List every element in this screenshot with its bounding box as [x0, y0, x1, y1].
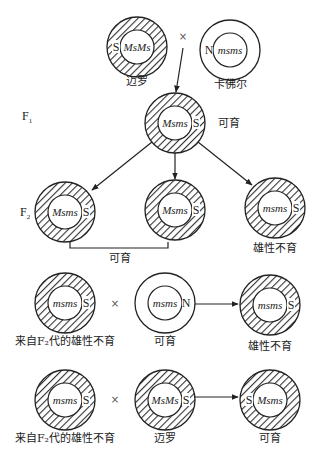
genotype-label: Msms [51, 206, 78, 218]
cell-caption: 可育 [154, 334, 176, 348]
genotype-label: msms [153, 297, 177, 309]
cell-r3-b: msmsN可育 [135, 273, 195, 348]
cytoplasm-label: S [83, 296, 90, 310]
genotype-label: msms [218, 44, 242, 56]
cytoplasm-label: S [193, 116, 200, 130]
generation-label-f1: F1 [22, 109, 33, 125]
cytoplasm-label: S [83, 393, 90, 407]
cell-f1: MsmsS可育 [145, 93, 240, 153]
cytoplasm-label: S [288, 298, 295, 312]
cytoplasm-label: S [293, 201, 300, 215]
cell-f2-c: msmsS雄性不育 [245, 178, 305, 255]
cross-symbol: × [111, 394, 119, 405]
cell-f2-a: MsmsS [35, 182, 95, 242]
f2-bracket-label: 可育 [109, 251, 131, 265]
genotype-label: Msms [161, 117, 188, 129]
cytoplasm-label: N [182, 296, 191, 310]
cytoplasm-label: S [246, 393, 253, 407]
cytoplasm-label: S [183, 393, 190, 407]
cell-caption: 可育 [218, 116, 240, 130]
generation-label-f2: F2 [20, 205, 31, 221]
cytoplasm-label: N [205, 43, 214, 57]
cell-caption: 雄性不育 [253, 241, 297, 255]
cell-r4-c: MsmsS可育 [240, 370, 300, 445]
cells: MsMsS迈罗msmsN卡佛尔MsmsS可育MsmsSMsmsSmsmsS雄性不… [15, 17, 305, 445]
cytoplasm-label: S [113, 40, 120, 54]
f2-fertile-bracket [70, 242, 168, 248]
cell-r3-a: msmsS来自F₂代的雄性不育 [15, 273, 115, 348]
cell-caption: 来自F₂代的雄性不育 [15, 431, 115, 445]
cross-symbol: × [111, 298, 119, 309]
cell-caption: 雄性不育 [248, 339, 292, 353]
cell-caption: 迈罗 [154, 432, 176, 445]
genotype-label: MsMs [151, 394, 179, 406]
arrow-parents-to-f1 [176, 48, 183, 92]
cell-r4-a: msmsS来自F₂代的雄性不育 [15, 370, 115, 445]
cytoplasm-label: S [83, 205, 90, 219]
cell-p1-maro: MsMsS迈罗 [107, 17, 167, 88]
cell-caption: 卡佛尔 [214, 78, 247, 91]
cell-caption: 可育 [259, 431, 281, 445]
cell-f2-b: MsmsS [145, 180, 205, 240]
cell-r3-c: msmsS雄性不育 [240, 275, 300, 353]
genotype-label: msms [53, 297, 77, 309]
genotype-label: msms [258, 299, 282, 311]
genotype-label: Msms [161, 204, 188, 216]
genotype-label: MsMs [123, 41, 151, 53]
cell-r4-b: MsMsS迈罗 [135, 370, 195, 445]
cross-symbol: × [179, 31, 187, 42]
cell-caption: 来自F₂代的雄性不育 [15, 334, 115, 348]
genotype-label: msms [263, 202, 287, 214]
cms-inheritance-diagram: F1 F2 可育 MsMsS迈罗msmsN卡佛尔MsmsS可育MsmsSMsms… [0, 0, 317, 466]
cell-caption: 迈罗 [126, 75, 148, 88]
cytoplasm-label: S [193, 203, 200, 217]
arrow-f1-to-f2a [92, 142, 152, 190]
cell-p2-kafir: msmsN卡佛尔 [200, 20, 260, 91]
genotype-label: msms [53, 394, 77, 406]
genotype-label: Msms [256, 394, 283, 406]
arrow-f1-to-f2c [198, 142, 252, 185]
